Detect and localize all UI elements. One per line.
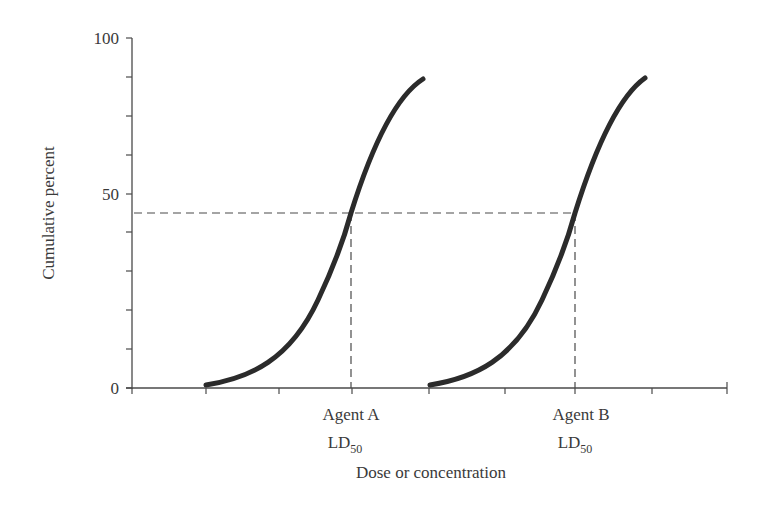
agent-a-ld50-label: LD50: [328, 433, 363, 456]
agent-b-ld50-label: LD50: [558, 433, 593, 456]
x-axis-title: Dose or concentration: [356, 463, 507, 482]
agent-a-curve: [206, 79, 423, 385]
y-axis-title: Cumulative percent: [39, 146, 58, 280]
y-tick-label-100: 100: [94, 29, 120, 48]
agent-b-label: Agent B: [552, 405, 609, 424]
agent-a-label: Agent A: [322, 405, 380, 424]
chart: 100 50 0 Cumulative percent Agent A LD50…: [0, 0, 762, 509]
agent-b-curve: [430, 78, 645, 385]
y-tick-label-50: 50: [102, 185, 119, 204]
y-ticks: [126, 38, 132, 388]
y-tick-label-0: 0: [111, 379, 120, 398]
